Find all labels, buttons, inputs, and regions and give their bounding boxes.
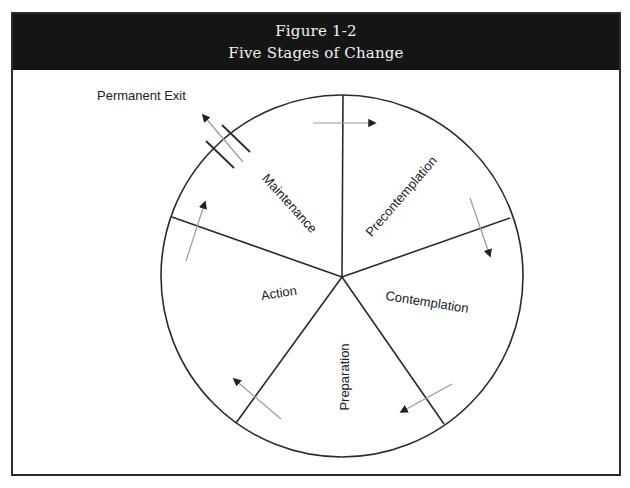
stage-label-contemplation: Contemplation	[385, 288, 470, 316]
arrow-icon	[186, 202, 205, 261]
exit-label: Permanent Exit	[97, 88, 186, 103]
stages-of-change-wheel: Permanent Exit Precontemplation Contempl…	[0, 0, 630, 488]
stage-label-maintenance: Maintenance	[259, 171, 320, 236]
arrow-icon	[234, 379, 281, 419]
stage-label-preparation: Preparation	[337, 343, 352, 410]
spoke-top	[342, 95, 343, 277]
stage-label-precontemplation: Precontemplation	[362, 153, 440, 239]
stage-label-action: Action	[260, 283, 298, 303]
arrow-icon	[401, 384, 452, 412]
arrow-icon	[470, 198, 490, 256]
